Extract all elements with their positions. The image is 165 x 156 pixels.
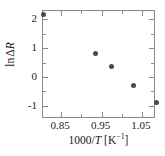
chart-figure: 0.850.951.05 -1012 1000/T [K−1] ln ΔR xyxy=(0,0,165,156)
x-tick-minor-top xyxy=(81,11,82,14)
x-tick-label: 1.05 xyxy=(131,119,150,132)
x-axis-label: 1000/T [K−1] xyxy=(42,133,155,147)
y-tick-label: 0 xyxy=(32,71,38,82)
y-tick-minor xyxy=(43,91,46,92)
y-tick-minor-right xyxy=(151,63,154,64)
y-tick-major xyxy=(43,106,48,107)
x-tick-major-top xyxy=(102,11,103,16)
x-tick-minor xyxy=(122,114,123,117)
y-tick-major xyxy=(43,48,48,49)
y-tick-major-right xyxy=(149,48,154,49)
y-axis-label: ln ΔR xyxy=(4,27,17,83)
y-tick-minor xyxy=(43,63,46,64)
x-tick-label: 0.85 xyxy=(51,119,70,132)
x-tick-major xyxy=(102,112,103,117)
x-tick-major-top xyxy=(61,11,62,16)
data-point xyxy=(109,64,114,69)
data-point xyxy=(41,12,46,17)
y-tick-label: 1 xyxy=(32,42,38,53)
data-point xyxy=(93,51,98,56)
y-tick-major-right xyxy=(149,106,154,107)
data-point xyxy=(131,83,136,88)
x-tick-major-top xyxy=(142,11,143,16)
y-tick-minor-right xyxy=(151,91,154,92)
y-tick-minor-right xyxy=(151,34,154,35)
y-tick-label: 2 xyxy=(32,13,38,24)
x-tick-minor-top xyxy=(122,11,123,14)
y-tick-major xyxy=(43,19,48,20)
y-tick-major-right xyxy=(149,19,154,20)
y-tick-label: -1 xyxy=(28,99,37,110)
x-tick-major xyxy=(142,112,143,117)
y-tick-major xyxy=(43,77,48,78)
x-tick-label: 0.95 xyxy=(91,119,110,132)
data-point xyxy=(154,100,159,105)
x-tick-major xyxy=(61,112,62,117)
y-tick-major-right xyxy=(149,77,154,78)
x-tick-minor xyxy=(81,114,82,117)
plot-frame xyxy=(42,10,155,118)
y-tick-minor xyxy=(43,34,46,35)
plot-area xyxy=(43,11,154,117)
